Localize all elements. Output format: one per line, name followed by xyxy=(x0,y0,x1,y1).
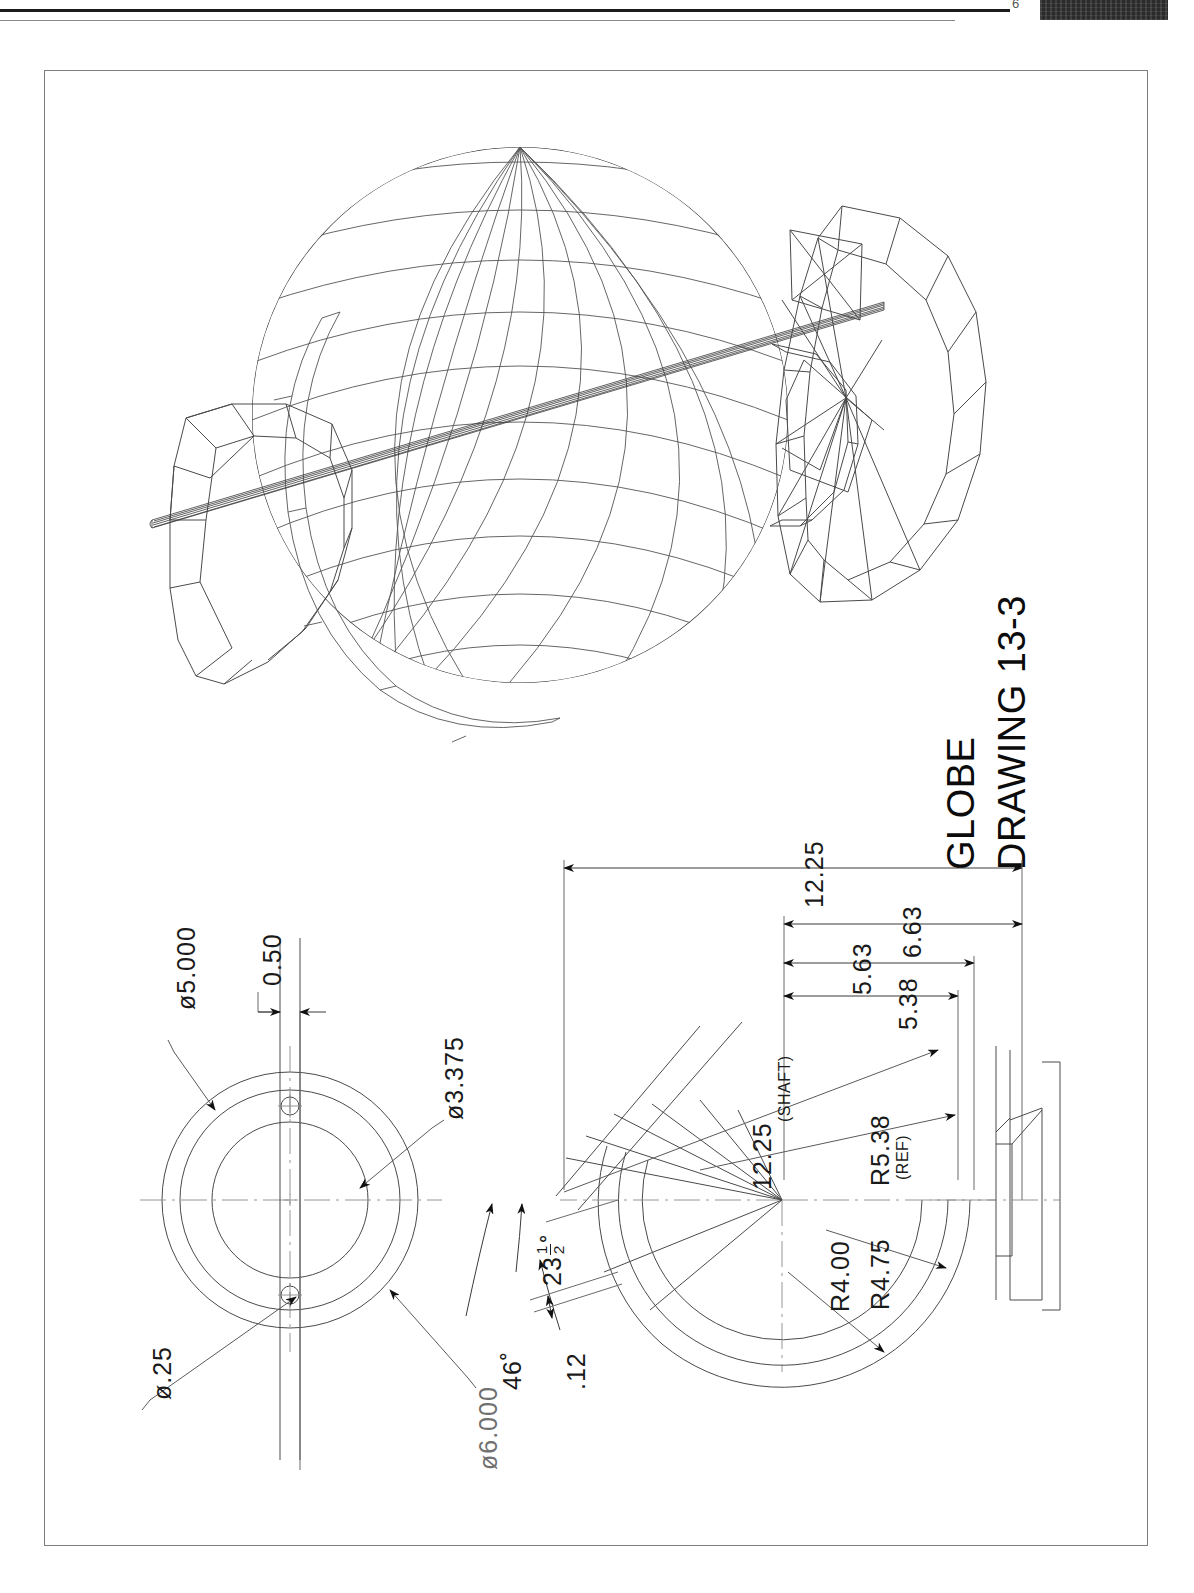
dim-text-rad-538: R5.38 xyxy=(866,1114,895,1186)
dim-text-rad-400: R4.00 xyxy=(826,1240,855,1312)
ang-fraction: 12 xyxy=(534,1244,566,1256)
dim-text-rad-475: R4.75 xyxy=(866,1238,895,1310)
dim-text-note-shaft: (SHAFT) xyxy=(776,1055,794,1122)
dim-text-len-563: 5.63 xyxy=(848,942,877,995)
dim-text-note-ref: (REF) xyxy=(894,1135,912,1180)
ang-degree-symbol: ˚ xyxy=(538,1233,566,1242)
dim-text-ang-46: 46˚ xyxy=(498,1351,527,1390)
dim-text-thk-012: .12 xyxy=(562,1352,591,1390)
ang-frac-numerator: 1 xyxy=(534,1244,551,1256)
ang-whole: 23 xyxy=(538,1256,566,1286)
dim-text-ang-23-half: 2312˚ xyxy=(534,1233,567,1286)
dim-text-len-1225-shaft: 12.25 xyxy=(748,1122,777,1190)
section-arcs xyxy=(598,1146,970,1387)
dim-text-len-538: 5.38 xyxy=(894,977,923,1030)
ang-frac-denominator: 2 xyxy=(551,1244,567,1256)
section-r538-leader xyxy=(700,1110,955,1170)
section-view-geometry xyxy=(0,0,1194,1593)
dim-text-len-1225-top: 12.25 xyxy=(800,840,829,908)
section-angle-dimensions xyxy=(466,1022,742,1330)
section-pedestal-profile xyxy=(930,1046,1060,1310)
section-linear-dimensions xyxy=(564,860,1022,1200)
dim-text-len-663: 6.63 xyxy=(898,905,927,958)
drawing-sheet-page: 6 xyxy=(0,0,1194,1593)
